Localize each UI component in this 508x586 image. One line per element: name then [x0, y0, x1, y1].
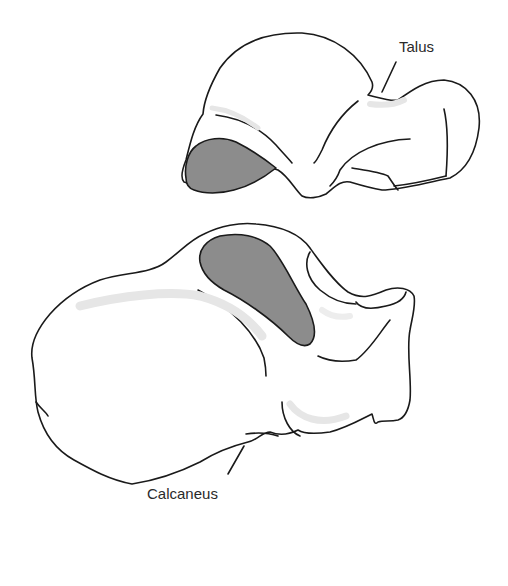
calcaneus-leader-line	[228, 446, 244, 474]
bone-illustration	[0, 0, 508, 586]
talus-leader-line	[382, 62, 396, 92]
calcaneus-label: Calcaneus	[147, 485, 218, 502]
talus-bone	[182, 33, 480, 198]
talus-label: Talus	[399, 38, 434, 55]
calcaneus-bone	[32, 223, 415, 484]
